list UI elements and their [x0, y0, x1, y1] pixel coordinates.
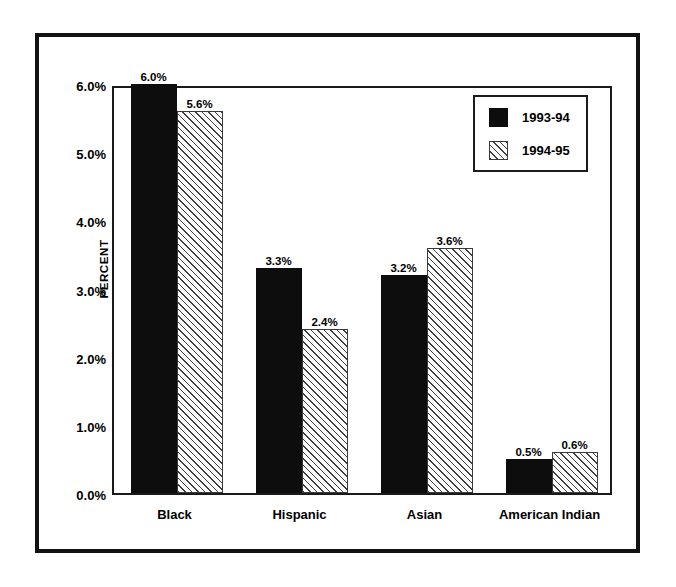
y-tick-label: 4.0% [56, 215, 106, 230]
y-tick-label: 5.0% [56, 147, 106, 162]
y-tick-label: 6.0% [56, 79, 106, 94]
bar-value-label: 0.5% [515, 446, 541, 458]
legend-entry-1993-94: 1993-94 [489, 107, 570, 127]
bar-value-label: 2.4% [311, 316, 337, 328]
bar-value-label: 3.6% [436, 235, 462, 247]
x-category-label-hispanic: Hispanic [272, 507, 326, 522]
bar-hispanic-1993-94 [256, 268, 302, 493]
legend-label-1993-94: 1993-94 [522, 110, 570, 125]
legend-label-1994-95: 1994-95 [522, 143, 570, 158]
legend-swatch-hatch-icon [489, 141, 508, 160]
x-category-label-asian: Asian [407, 507, 442, 522]
bar-black-1993-94 [131, 84, 177, 493]
y-tick-label: 2.0% [56, 351, 106, 366]
x-category-label-american-indian: American Indian [499, 507, 600, 522]
bar-value-label: 3.2% [390, 262, 416, 274]
y-tick-label: 0.0% [56, 488, 106, 503]
chart-figure: PERCENT 0.0%1.0%2.0%3.0%4.0%5.0%6.0% 6.0… [0, 0, 676, 587]
bar-hispanic-1994-95 [302, 329, 348, 493]
bar-value-label: 0.6% [561, 439, 587, 451]
bar-value-label: 6.0% [140, 71, 166, 83]
legend-swatch-solid-icon [489, 108, 508, 127]
bar-asian-1993-94 [381, 275, 427, 493]
y-tick-label: 3.0% [56, 283, 106, 298]
bar-american-indian-1994-95 [552, 452, 598, 493]
y-axis-tick-labels: 0.0%1.0%2.0%3.0%4.0%5.0%6.0% [56, 0, 106, 587]
chart-legend: 1993-94 1994-95 [473, 95, 588, 172]
bar-value-label: 5.6% [186, 98, 212, 110]
y-tick-label: 1.0% [56, 419, 106, 434]
bar-black-1994-95 [177, 111, 223, 493]
bar-american-indian-1993-94 [506, 459, 552, 493]
x-category-label-black: Black [157, 507, 192, 522]
legend-entry-1994-95: 1994-95 [489, 140, 570, 160]
bar-asian-1994-95 [427, 248, 473, 493]
bar-value-label: 3.3% [265, 255, 291, 267]
